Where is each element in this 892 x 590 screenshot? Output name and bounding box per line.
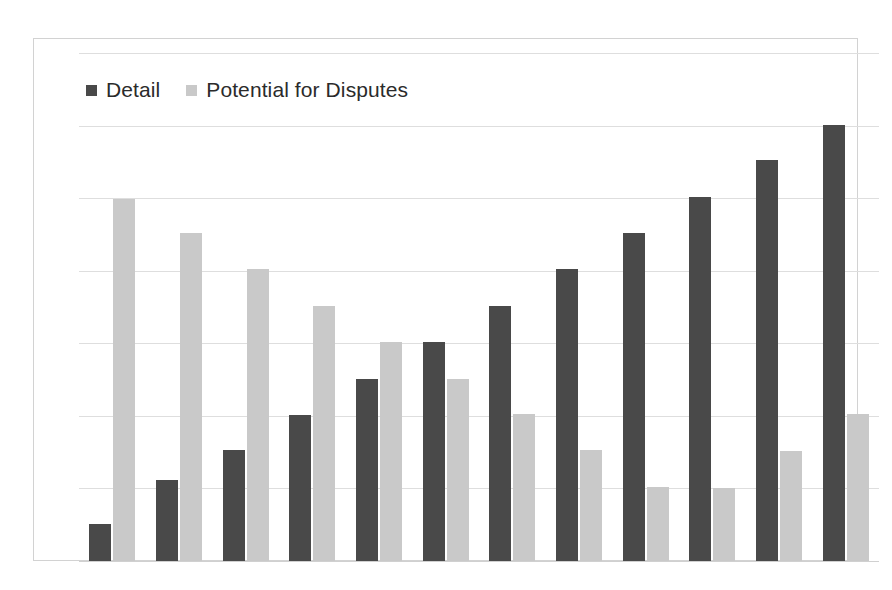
bar-potential-for-disputes[interactable]: [847, 414, 869, 561]
bar-group: [823, 53, 869, 561]
bar-potential-for-disputes[interactable]: [447, 379, 469, 561]
chart-legend: Detail Potential for Disputes: [86, 78, 408, 102]
bar-detail[interactable]: [823, 125, 845, 561]
bar-potential-for-disputes[interactable]: [580, 450, 602, 561]
bar-detail[interactable]: [756, 160, 778, 561]
bar-group: [289, 53, 335, 561]
bar-detail[interactable]: [289, 415, 311, 561]
bar-detail[interactable]: [623, 233, 645, 561]
bar-detail[interactable]: [223, 450, 245, 561]
bar-detail[interactable]: [689, 197, 711, 561]
bar-detail[interactable]: [556, 269, 578, 561]
legend-label-potential-for-disputes: Potential for Disputes: [206, 78, 408, 102]
bars-layer: [79, 53, 879, 561]
bar-detail[interactable]: [356, 379, 378, 561]
bar-potential-for-disputes[interactable]: [180, 233, 202, 561]
bar-group: [556, 53, 602, 561]
legend-label-detail: Detail: [106, 78, 160, 102]
bar-potential-for-disputes[interactable]: [113, 199, 135, 561]
bar-detail[interactable]: [89, 524, 111, 561]
bar-chart-figure: Detail Potential for Disputes: [0, 0, 892, 590]
legend-swatch-detail: [86, 85, 97, 96]
bar-group: [756, 53, 802, 561]
bar-potential-for-disputes[interactable]: [713, 488, 735, 561]
bar-group: [689, 53, 735, 561]
plot-area: [79, 53, 879, 561]
legend-entry-potential-for-disputes[interactable]: Potential for Disputes: [186, 78, 408, 102]
bar-group: [423, 53, 469, 561]
bar-potential-for-disputes[interactable]: [647, 487, 669, 561]
chart-frame: [33, 38, 858, 561]
legend-swatch-potential-for-disputes: [186, 85, 197, 96]
bar-group: [623, 53, 669, 561]
bar-potential-for-disputes[interactable]: [380, 342, 402, 561]
bar-potential-for-disputes[interactable]: [513, 414, 535, 561]
bar-group: [356, 53, 402, 561]
bar-group: [89, 53, 135, 561]
bar-detail[interactable]: [156, 480, 178, 561]
bar-group: [156, 53, 202, 561]
axis-baseline: [79, 561, 879, 562]
bar-group: [489, 53, 535, 561]
bar-potential-for-disputes[interactable]: [313, 306, 335, 561]
bar-potential-for-disputes[interactable]: [247, 269, 269, 561]
bar-detail[interactable]: [489, 306, 511, 561]
bar-detail[interactable]: [423, 342, 445, 561]
bar-group: [223, 53, 269, 561]
legend-entry-detail[interactable]: Detail: [86, 78, 160, 102]
bar-potential-for-disputes[interactable]: [780, 451, 802, 561]
